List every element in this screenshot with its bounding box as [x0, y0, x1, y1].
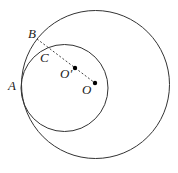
point-o-prime-dot	[73, 66, 77, 70]
label-a: A	[7, 78, 16, 93]
inner-circle	[21, 45, 108, 132]
point-o-dot	[93, 81, 97, 85]
label-o: O	[82, 82, 92, 97]
label-b: B	[28, 26, 36, 41]
geometry-diagram: A B C O′ O	[0, 0, 178, 173]
label-o-prime: O′	[60, 66, 72, 81]
label-c: C	[40, 50, 49, 65]
